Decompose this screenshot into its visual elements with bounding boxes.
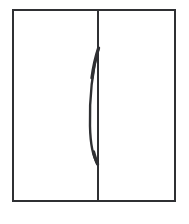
product-illustration bbox=[0, 0, 189, 224]
bow-handle-icon bbox=[80, 40, 108, 172]
watermark bbox=[12, 206, 176, 221]
right-door-panel bbox=[98, 11, 174, 200]
